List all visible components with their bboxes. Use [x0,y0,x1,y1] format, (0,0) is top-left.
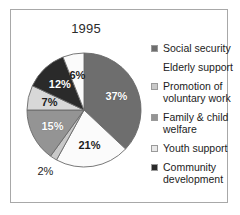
legend-swatch [151,45,158,52]
legend-swatch [151,83,158,90]
pie-slice-label: 2% [37,165,53,177]
chart-legend: Social securityElderly supportPromotion … [151,42,237,192]
legend-label: Community development [163,161,237,185]
legend-swatch [151,114,158,121]
legend-item[interactable]: Family & child welfare [151,111,237,135]
pie-chart: 37%21%2%15%7%12%6% [25,51,143,169]
pie-slice-label: 21% [78,139,100,151]
legend-item[interactable]: Elderly support [151,61,237,73]
chart-frame: 1995 37%21%2%15%7%12%6% Social securityE… [10,9,228,203]
legend-item[interactable]: Social security [151,42,237,54]
chart-title: 1995 [11,21,161,36]
legend-swatch [151,145,158,152]
legend-label: Elderly support [163,61,233,73]
pie-slice-label: 7% [42,96,58,108]
pie-slice-label: 37% [105,90,127,102]
legend-label: Family & child welfare [163,111,237,135]
legend-label: Youth support [163,142,227,154]
legend-label: Social security [163,42,231,54]
legend-item[interactable]: Community development [151,161,237,185]
legend-swatch [151,164,158,171]
pie-slice-label: 15% [41,120,63,132]
legend-item[interactable]: Promotion of voluntary work [151,80,237,104]
legend-label: Promotion of voluntary work [163,80,237,104]
pie-slice-label: 6% [69,69,85,81]
legend-swatch [151,64,158,71]
legend-item[interactable]: Youth support [151,142,237,154]
pie-slice-label: 12% [49,78,71,90]
